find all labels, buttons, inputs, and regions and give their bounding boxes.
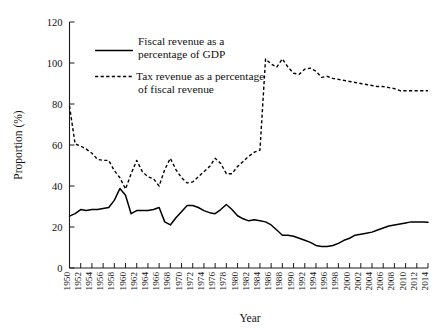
x-tick-label: 1998 — [330, 272, 340, 291]
y-tick-label: 0 — [57, 263, 62, 274]
x-tick-label: 2002 — [353, 272, 363, 291]
y-tick-label: 100 — [47, 58, 63, 69]
y-tick-label: 60 — [52, 140, 63, 151]
x-tick-label: 1976 — [207, 272, 217, 291]
x-tick-label: 2012 — [409, 272, 419, 291]
y-tick-label: 20 — [52, 222, 63, 233]
x-tick-label: 2008 — [386, 272, 396, 291]
x-tick-label: 1982 — [241, 272, 251, 291]
x-axis-title: Year — [239, 312, 260, 324]
x-tick-label: 2000 — [342, 272, 352, 291]
x-tick-label: 1980 — [230, 272, 240, 291]
x-tick-label: 1970 — [174, 272, 184, 291]
x-tick-label: 1950 — [62, 272, 72, 291]
x-tick-label: 1974 — [196, 272, 206, 291]
x-tick-labels: 1950195219541956195819601962196419661968… — [62, 272, 431, 291]
legend-label-series2-line1: Tax revenue as a percentage — [136, 70, 264, 82]
x-tick-label: 1994 — [308, 272, 318, 291]
y-tick-label: 80 — [52, 99, 63, 110]
x-tick-label: 1958 — [106, 272, 116, 291]
x-tick-label: 1988 — [274, 272, 284, 291]
x-tick-label: 1986 — [263, 272, 273, 291]
x-tick-label: 1996 — [319, 272, 329, 291]
x-tick-label: 2004 — [364, 272, 374, 291]
x-tick-label: 1956 — [95, 272, 105, 291]
x-tick-label: 1968 — [162, 272, 172, 291]
x-tick-label: 1990 — [286, 272, 296, 291]
x-tick-label: 2006 — [375, 272, 385, 291]
x-tick-label: 1972 — [185, 272, 195, 291]
x-tick-label: 2014 — [420, 272, 430, 291]
legend-label-series1-line1: Fiscal revenue as a — [138, 35, 224, 47]
x-tick-label: 1978 — [218, 272, 228, 291]
legend-label-series2-line2: of fiscal revenue — [138, 83, 214, 95]
legend-label-series1-line2: percentage of GDP — [138, 48, 225, 60]
y-tick-label: 120 — [47, 17, 63, 28]
x-tick-label: 1992 — [297, 272, 307, 291]
x-tick-label: 1962 — [129, 272, 139, 291]
chart-figure: 020406080100120 195019521954195619581960… — [0, 0, 438, 330]
x-tick-label: 1966 — [151, 272, 161, 291]
x-tick-label: 1984 — [252, 272, 262, 291]
y-tick-label: 40 — [52, 181, 63, 192]
x-tick-label: 1960 — [118, 272, 128, 291]
x-tick-label: 1964 — [140, 272, 150, 291]
y-axis-title: Proportion (%) — [12, 110, 25, 179]
x-tick-label: 2010 — [398, 272, 408, 291]
x-tick-label: 1954 — [84, 272, 94, 291]
line-chart: 020406080100120 195019521954195619581960… — [0, 0, 438, 330]
x-tick-label: 1952 — [73, 272, 83, 291]
